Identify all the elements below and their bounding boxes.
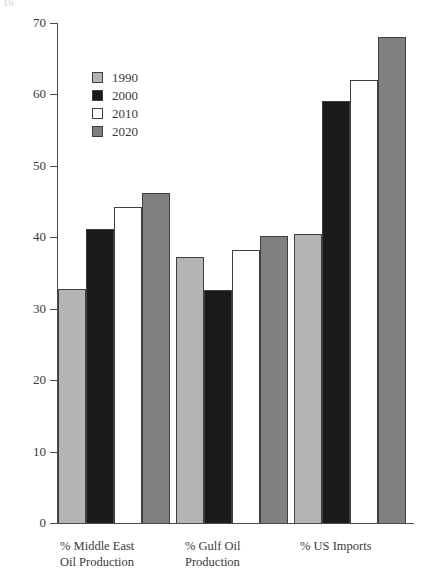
y-axis-tick [50, 380, 57, 381]
x-axis-line [51, 523, 414, 524]
y-axis-tick-label-wrap: 70 [0, 23, 46, 24]
bar-2000-group3[interactable] [322, 101, 350, 523]
bar-2010-group3[interactable] [350, 80, 378, 523]
bar-1990-group2[interactable] [176, 257, 204, 523]
bar-1990-group3[interactable] [294, 234, 322, 523]
y-axis-tick-label: 10 [2, 445, 46, 458]
y-axis-tick-label-wrap: 40 [0, 237, 46, 238]
y-axis-tick-label: 60 [2, 87, 46, 100]
y-axis-tick [50, 94, 57, 95]
bar-2020-group2[interactable] [260, 236, 288, 523]
bar-chart: 16 010203040506070 1990200020102020 % Mi… [0, 0, 425, 587]
bar-2010-group1[interactable] [114, 207, 142, 523]
bar-2000-group1[interactable] [86, 229, 114, 523]
bar-2020-group3[interactable] [378, 37, 406, 523]
y-axis-tick-label: 40 [2, 230, 46, 243]
y-axis-tick-label: 0 [2, 516, 46, 529]
y-axis-tick [50, 523, 57, 524]
y-axis-tick [50, 166, 57, 167]
y-axis-tick [50, 452, 57, 453]
y-axis-tick-label-wrap: 50 [0, 166, 46, 167]
bar-2000-group2[interactable] [204, 290, 232, 523]
y-axis-tick-label: 50 [2, 159, 46, 172]
y-axis-tick-label-wrap: 20 [0, 380, 46, 381]
y-axis-tick-label: 70 [2, 16, 46, 29]
y-axis-tick [50, 237, 57, 238]
y-axis-tick [50, 309, 57, 310]
bar-1990-group1[interactable] [58, 289, 86, 523]
y-axis-tick-label: 30 [2, 302, 46, 315]
y-axis-tick-label-wrap: 60 [0, 94, 46, 95]
x-axis-group-label-1: % Middle East Oil Production [60, 538, 134, 570]
x-axis-group-label-3: % US Imports [300, 538, 372, 554]
plot-area [58, 23, 406, 523]
page-corner-mark: 16 [3, 0, 14, 8]
x-axis-group-label-2: % Gulf Oil Production [185, 538, 241, 570]
y-axis-tick-label-wrap: 0 [0, 523, 46, 524]
y-axis-tick-label-wrap: 30 [0, 309, 46, 310]
bar-2010-group2[interactable] [232, 250, 260, 523]
y-axis-tick-label-wrap: 10 [0, 452, 46, 453]
y-axis-tick [50, 23, 57, 24]
bar-2020-group1[interactable] [142, 193, 170, 523]
y-axis-tick-label: 20 [2, 373, 46, 386]
